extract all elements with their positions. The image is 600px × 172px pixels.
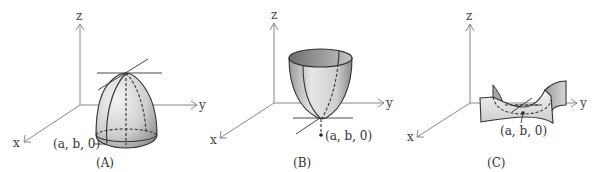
caption-c: (C) [487, 156, 506, 170]
bowl-rim [289, 49, 352, 67]
tangent-line-x [296, 118, 320, 134]
point-label-b: (a, b, 0) [325, 129, 372, 143]
z-axis-label: z [466, 9, 472, 23]
panel-a: z y x (a, b, 0) (A) [13, 9, 206, 170]
z-axis-label: z [76, 9, 82, 23]
caption-a: (A) [96, 156, 114, 170]
dome-surface [96, 59, 162, 148]
y-axis-label: y [579, 96, 587, 110]
critical-points-figure: z y x (a, b, 0) (A) z y x [0, 0, 600, 172]
panel-c: z y x (a, b, 0) (C) [407, 9, 587, 170]
point-label-c: (a, b, 0) [500, 124, 547, 138]
y-axis-label: y [385, 96, 393, 110]
point-label-a: (a, b, 0) [53, 137, 100, 151]
x-axis-label: x [13, 136, 20, 150]
critical-point-dot [319, 133, 323, 137]
z-axis-label: z [271, 8, 277, 22]
caption-b: (B) [293, 156, 311, 170]
x-axis-label: x [407, 130, 414, 144]
x-axis [220, 103, 274, 138]
y-axis-label: y [198, 98, 206, 112]
x-axis-label: x [210, 133, 217, 147]
x-axis [417, 103, 470, 137]
axes-c: z y x [407, 9, 587, 144]
panel-b: z y x (a, b, 0) (B) [210, 8, 393, 170]
saddle-surface [480, 81, 566, 123]
